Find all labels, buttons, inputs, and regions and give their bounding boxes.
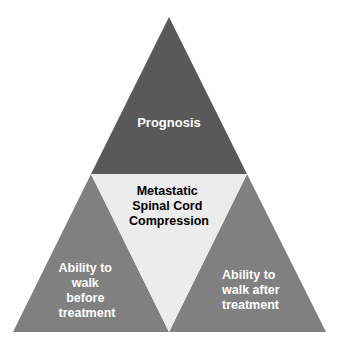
label-metastatic-spinal-cord-compression: Metastatic Spinal Cord Compression: [129, 184, 209, 228]
label-right-line-1: walk after: [221, 283, 280, 297]
label-right-line-2: treatment: [222, 298, 280, 312]
label-center-line-2: Compression: [129, 214, 209, 228]
label-ability-walk-before: Ability to walk before treatment: [59, 261, 117, 320]
label-left-line-0: Ability to: [59, 261, 113, 275]
label-left-line-2: before: [66, 291, 104, 305]
diagram-root: Prognosis Metastatic Spinal Cord Compres…: [0, 0, 338, 344]
segment-prognosis: [91, 17, 247, 174]
label-left-line-1: walk: [71, 276, 99, 290]
label-center-line-0: Metastatic: [137, 184, 198, 198]
label-center-line-1: Spinal Cord: [132, 199, 202, 213]
triangle-diagram: Prognosis Metastatic Spinal Cord Compres…: [0, 0, 338, 344]
label-prognosis: Prognosis: [137, 115, 201, 130]
label-right-line-0: Ability to: [222, 268, 276, 282]
label-left-line-3: treatment: [59, 306, 117, 320]
label-ability-walk-after: Ability to walk after treatment: [221, 268, 283, 312]
label-prognosis-line-0: Prognosis: [137, 115, 201, 130]
